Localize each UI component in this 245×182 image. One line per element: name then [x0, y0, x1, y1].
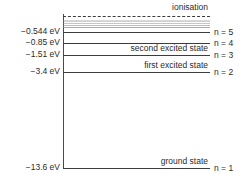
energy-label-n4: −0.85 eV	[26, 38, 60, 47]
level-line-n5	[63, 32, 210, 33]
second-excited-state-label: second excited state	[131, 44, 209, 53]
energy-label-n3: −1.51 eV	[26, 50, 60, 59]
n-label-n5: n = 5	[214, 28, 233, 37]
converging-level-line	[63, 27, 210, 28]
n-label-n3: n = 3	[214, 51, 233, 60]
first-excited-state-label: first excited state	[144, 61, 208, 70]
level-line-n1	[63, 168, 210, 169]
energy-label-n1: −13.6 eV	[26, 163, 60, 172]
level-line-n2	[63, 72, 210, 73]
level-line-n3	[63, 55, 210, 56]
converging-level-line	[63, 23, 210, 24]
energy-label-n2: −3.4 eV	[30, 67, 60, 76]
ground-state-label: ground state	[161, 157, 208, 166]
ionisation-label: ionisation	[172, 3, 208, 12]
energy-label-n5: −0.544 eV	[21, 27, 60, 36]
energy-axis	[63, 14, 64, 169]
ionisation-line	[63, 16, 210, 17]
converging-level-line	[63, 21, 210, 22]
energy-level-diagram: ionisation −0.544 eV n = 5 −0.85 eV n = …	[0, 0, 245, 182]
n-label-n2: n = 2	[214, 68, 233, 77]
converging-level-line	[63, 25, 210, 26]
n-label-n1: n = 1	[214, 164, 233, 173]
n-label-n4: n = 4	[214, 39, 233, 48]
